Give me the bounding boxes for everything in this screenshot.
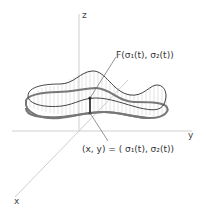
- surface-point-label: F(σ₁(t), σ₂(t)): [116, 50, 174, 60]
- base-curve-front: [26, 108, 150, 118]
- base-point-label: (x, y) = ( σ₁(t), σ₂(t)): [82, 144, 174, 154]
- surface-curve: [28, 71, 166, 110]
- diagram-canvas: [0, 0, 206, 211]
- axis-extension: [79, 80, 128, 131]
- x-axis: [15, 131, 79, 197]
- z-axis-label: z: [82, 10, 87, 20]
- x-axis-label: x: [14, 196, 19, 206]
- y-axis-label: y: [188, 130, 193, 140]
- leader-bottom: [90, 113, 108, 141]
